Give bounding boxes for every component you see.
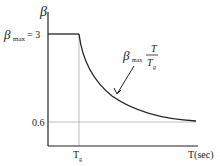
tg-tick-subscript: g bbox=[79, 156, 82, 162]
beta-max-value: = 3 bbox=[27, 29, 40, 40]
formula-beta: β bbox=[122, 48, 130, 63]
y-axis-label: β bbox=[39, 4, 47, 19]
beta-spectrum-chart: β β max = 3 0.6 T g T(sec) β max T T g bbox=[0, 0, 220, 166]
formula-denominator-subscript: g bbox=[153, 64, 156, 70]
formula-beta-subscript: max bbox=[132, 57, 142, 63]
formula-numerator: T bbox=[151, 43, 158, 54]
min-value-label: 0.6 bbox=[32, 117, 45, 128]
beta-max-symbol: β bbox=[3, 27, 11, 42]
decay-curve bbox=[79, 34, 196, 121]
annotation-arrow bbox=[117, 66, 134, 94]
beta-max-subscript: max bbox=[13, 35, 26, 43]
x-axis-label: T(sec) bbox=[188, 149, 214, 161]
